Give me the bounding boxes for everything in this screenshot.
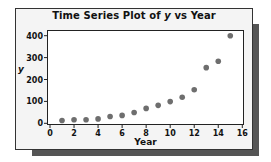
data-point [71,117,77,123]
data-point [179,94,185,100]
data-point [215,59,221,65]
x-tick-label: 12 [189,129,200,138]
x-tick-label: 2 [71,129,77,138]
data-point [143,106,149,112]
x-tick-label: 4 [95,129,101,138]
scatter-plot: 01002003004000246810121416 [0,0,271,162]
x-tick-label: 8 [143,129,149,138]
data-point [59,118,65,124]
data-point [95,116,101,122]
x-tick-label: 0 [47,129,53,138]
y-tick-label: 200 [26,76,43,85]
data-point [227,33,233,39]
data-points [59,33,233,123]
data-point [167,99,173,105]
data-point [119,113,125,119]
data-point [203,65,209,71]
x-tick-label: 14 [213,129,225,138]
y-tick-label: 300 [26,54,43,63]
x-tick-label: 16 [237,129,249,138]
y-tick-label: 0 [37,119,43,128]
data-point [107,114,113,120]
x-tick-label: 10 [165,129,177,138]
axes: 01002003004000246810121416 [26,32,248,138]
data-point [191,87,197,93]
x-tick-label: 6 [119,129,125,138]
data-point [131,110,137,116]
y-tick-label: 400 [26,32,43,41]
data-point [155,103,161,109]
y-tick-label: 100 [26,97,43,106]
data-point [83,117,89,123]
